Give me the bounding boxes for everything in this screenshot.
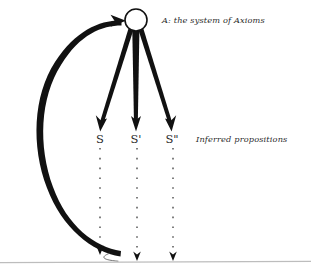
axiom-node-circle[interactable] (125, 9, 147, 31)
axioms-inference-diagram: A: the system of Axioms S S' S" Inferred… (0, 0, 311, 274)
inferred-propositions-label: Inferred propositions (195, 134, 287, 144)
proposition-label-S-prime: S' (130, 132, 141, 146)
proposition-label-S: S (96, 132, 104, 146)
proposition-label-S-double-prime: S" (165, 132, 178, 146)
diagram-canvas: A: the system of Axioms S S' S" Inferred… (0, 0, 311, 274)
axiom-system-label: A: the system of Axioms (161, 15, 265, 25)
